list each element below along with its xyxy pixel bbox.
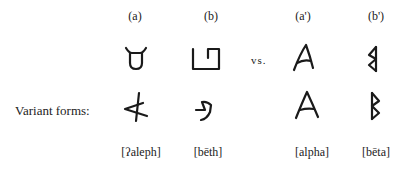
aleph-ox-head-icon [122,44,150,72]
name-beta: [bēta] [362,145,390,160]
variant-forms-label: Variant forms: [15,103,90,119]
column-label-a-prime: (a') [295,9,310,24]
name-beth: [bēth] [194,145,223,160]
alpha-icon [291,42,319,74]
beth-house-icon [190,45,224,73]
beta-variant-icon [368,91,384,121]
aleph-variant-icon [121,91,153,123]
versus-label: vs. [251,54,267,66]
column-label-b: (b) [204,9,218,24]
column-label-b-prime: (b') [368,9,384,24]
reversed-beta-icon [365,45,381,75]
alpha-variant-icon [292,89,322,121]
name-alpha: [alpha] [295,145,329,160]
name-aleph: [ʔaleph] [121,145,160,160]
beth-variant-icon [193,99,215,123]
column-label-a: (a) [128,9,141,24]
